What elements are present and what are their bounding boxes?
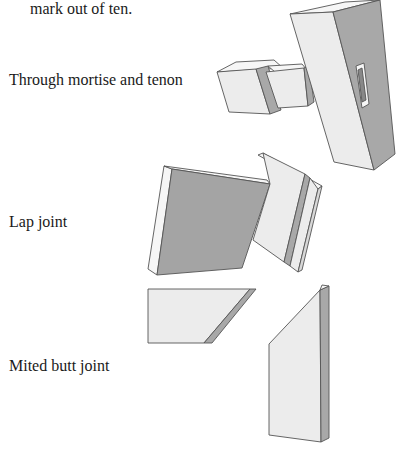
lap-board-left [148, 166, 270, 275]
lap-board-right [253, 153, 322, 272]
mitre-piece-vertical [269, 285, 329, 442]
joint-illustrations [0, 0, 402, 450]
lap-joint-illustration [148, 153, 322, 275]
mitre-piece-horizontal [148, 289, 256, 343]
tenon-rail [217, 60, 314, 114]
mortise-and-tenon-illustration [217, 0, 395, 170]
mitred-butt-joint-illustration [148, 285, 329, 442]
